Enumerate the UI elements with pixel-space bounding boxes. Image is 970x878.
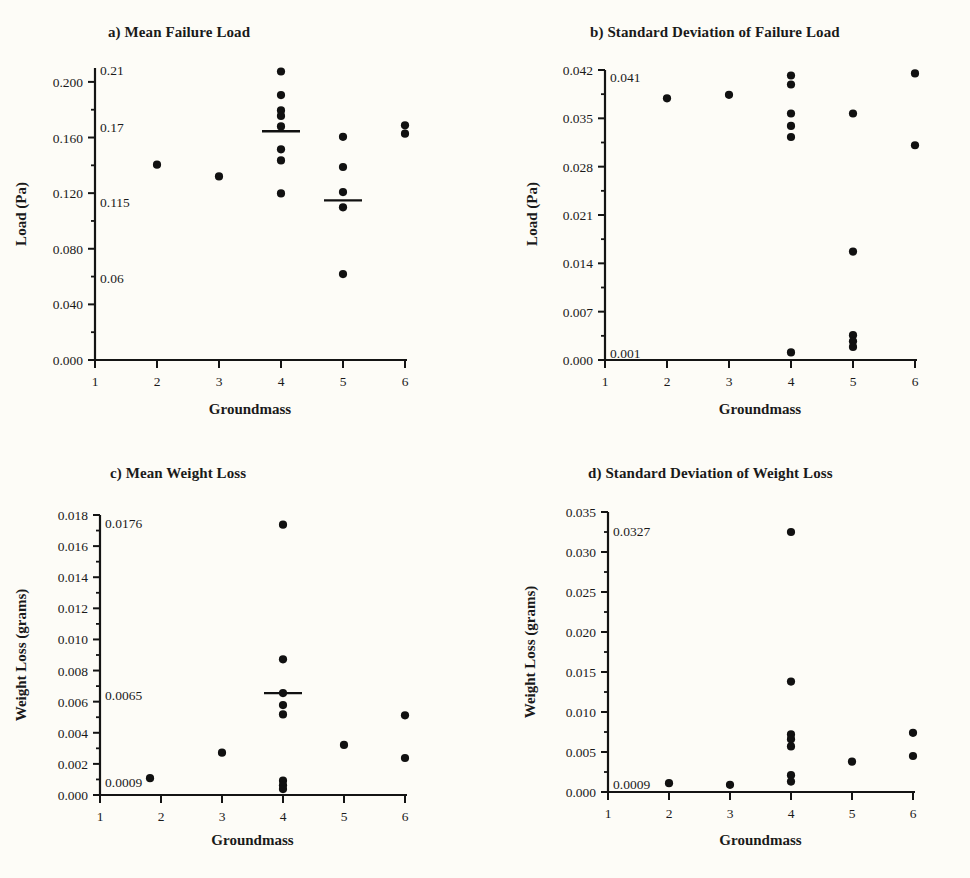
panel-b: b) Standard Deviation of Failure Load 0.… [485, 0, 970, 440]
data-point [663, 94, 671, 102]
y-tick-label: 0.000 [58, 788, 89, 803]
panel-a: a) Mean Failure Load 0.0000.0400.0800.12… [0, 0, 485, 440]
x-tick-label: 1 [97, 809, 104, 824]
y-tick-label: 0.120 [53, 186, 84, 201]
value-annotation: 0.0176 [105, 516, 142, 531]
y-tick-label: 0.028 [563, 160, 594, 175]
data-point [277, 91, 285, 99]
x-tick-label: 6 [402, 809, 409, 824]
data-point [787, 678, 795, 686]
x-axis-title: Groundmass [719, 401, 801, 417]
data-point [279, 689, 287, 697]
x-tick-label: 3 [216, 374, 223, 389]
y-tick-label: 0.018 [58, 508, 89, 523]
panel-c-plot: 0.0000.0020.0040.0060.0080.0100.0120.014… [0, 440, 485, 878]
y-tick-label: 0.160 [53, 131, 84, 146]
data-point [279, 521, 287, 529]
x-axis-title: Groundmass [211, 832, 293, 848]
data-point [787, 778, 795, 786]
data-point [909, 752, 917, 760]
data-point [849, 247, 857, 255]
x-tick-label: 1 [92, 374, 99, 389]
y-tick-label: 0.002 [58, 757, 88, 772]
value-annotation: 0.0009 [105, 775, 142, 790]
value-annotation: 0.0327 [613, 524, 650, 539]
data-point [787, 133, 795, 141]
data-point [909, 729, 917, 737]
data-point [401, 711, 409, 719]
y-axis-title: Load (Pa) [13, 182, 30, 246]
data-point [726, 781, 734, 789]
y-tick-label: 0.080 [53, 242, 84, 257]
data-point [848, 758, 856, 766]
panel-d: d) Standard Deviation of Weight Loss 0.0… [485, 440, 970, 878]
y-axis-title: Weight Loss (grams) [522, 586, 539, 719]
y-tick-label: 0.007 [563, 305, 594, 320]
x-tick-label: 1 [605, 806, 612, 821]
data-point [279, 701, 287, 709]
x-axis-title: Groundmass [719, 832, 801, 848]
figure-root: a) Mean Failure Load 0.0000.0400.0800.12… [0, 0, 970, 878]
y-tick-label: 0.035 [563, 111, 594, 126]
data-point [340, 741, 348, 749]
y-tick-label: 0.000 [563, 353, 594, 368]
x-tick-label: 6 [402, 374, 409, 389]
y-tick-label: 0.042 [563, 63, 593, 78]
data-point [911, 141, 919, 149]
data-point [401, 130, 409, 138]
x-tick-label: 6 [912, 374, 919, 389]
y-tick-label: 0.000 [566, 785, 597, 800]
y-tick-label: 0.020 [566, 625, 597, 640]
x-tick-label: 3 [727, 806, 734, 821]
panel-b-plot: 0.0000.0070.0140.0210.0280.0350.04212345… [485, 0, 970, 440]
y-tick-label: 0.008 [58, 664, 89, 679]
data-point [339, 133, 347, 141]
x-tick-label: 2 [664, 374, 671, 389]
x-tick-label: 4 [280, 809, 287, 824]
y-tick-label: 0.030 [566, 545, 597, 560]
x-axis-title: Groundmass [209, 401, 291, 417]
data-point [277, 67, 285, 75]
y-tick-label: 0.004 [58, 726, 89, 741]
x-tick-label: 1 [602, 374, 609, 389]
y-tick-label: 0.010 [566, 705, 597, 720]
data-point [787, 742, 795, 750]
panel-a-plot: 0.0000.0400.0800.1200.1600.2001234560.21… [0, 0, 485, 440]
y-tick-label: 0.014 [58, 570, 89, 585]
value-annotation: 0.001 [610, 346, 640, 361]
y-tick-label: 0.035 [566, 505, 597, 520]
x-tick-label: 6 [910, 806, 917, 821]
y-axis-title: Load (Pa) [524, 182, 541, 246]
data-point [787, 109, 795, 117]
y-tick-label: 0.021 [563, 208, 593, 223]
x-tick-label: 2 [154, 374, 161, 389]
data-point [401, 754, 409, 762]
data-point [339, 163, 347, 171]
x-tick-label: 2 [666, 806, 673, 821]
data-point [401, 121, 409, 129]
data-point [787, 528, 795, 536]
panel-d-plot: 0.0000.0050.0100.0150.0200.0250.0300.035… [485, 440, 970, 878]
panel-c: c) Mean Weight Loss 0.0000.0020.0040.006… [0, 440, 485, 878]
data-point [218, 749, 226, 757]
data-point [277, 112, 285, 120]
x-tick-label: 5 [340, 374, 347, 389]
data-point [339, 270, 347, 278]
x-tick-label: 4 [278, 374, 285, 389]
y-tick-label: 0.005 [566, 745, 597, 760]
y-axis-title: Weight Loss (grams) [13, 589, 30, 722]
data-point [849, 109, 857, 117]
data-point [339, 188, 347, 196]
value-annotation: 0.17 [100, 120, 124, 135]
data-point [849, 343, 857, 351]
y-tick-label: 0.200 [53, 75, 84, 90]
value-annotation: 0.041 [610, 70, 640, 85]
value-annotation: 0.06 [100, 271, 124, 286]
data-point [911, 69, 919, 77]
data-point [787, 71, 795, 79]
y-tick-label: 0.040 [53, 297, 84, 312]
y-tick-label: 0.012 [58, 601, 88, 616]
data-point [215, 172, 223, 180]
data-point [725, 91, 733, 99]
y-tick-label: 0.014 [563, 256, 594, 271]
